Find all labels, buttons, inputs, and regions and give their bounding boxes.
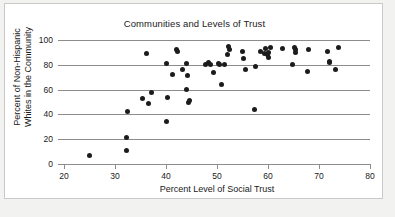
data-point <box>144 51 149 56</box>
plot-area <box>64 40 370 164</box>
data-point <box>243 67 248 72</box>
data-point <box>306 47 311 52</box>
y-tick-label: 40 <box>25 110 53 119</box>
data-point <box>208 62 213 67</box>
x-tick-label: 40 <box>151 172 181 181</box>
gridline <box>64 40 370 41</box>
data-point <box>175 49 180 54</box>
data-point <box>252 107 257 112</box>
data-point <box>253 64 258 69</box>
x-tick-mark <box>64 164 65 169</box>
chart-figure: Communities and Levels of Trust Percent … <box>4 3 383 199</box>
x-tick-label: 80 <box>355 172 385 181</box>
data-point <box>280 46 285 51</box>
x-axis-title: Percent Level of Social Trust <box>64 184 370 194</box>
data-point <box>266 55 271 60</box>
x-tick-mark <box>217 164 218 169</box>
data-point <box>170 72 175 77</box>
data-point <box>268 45 273 50</box>
gridline <box>64 114 370 115</box>
x-tick-label: 20 <box>49 172 79 181</box>
x-tick-label: 30 <box>100 172 130 181</box>
data-point <box>240 49 245 54</box>
data-point <box>180 67 185 72</box>
data-point <box>211 70 216 75</box>
data-point <box>290 62 295 67</box>
data-point <box>164 119 169 124</box>
data-point <box>217 62 222 67</box>
data-point <box>140 96 145 101</box>
x-tick-label: 60 <box>253 172 283 181</box>
figure-root: Communities and Levels of Trust Percent … <box>0 0 395 217</box>
gridline <box>64 139 370 140</box>
data-point <box>187 98 192 103</box>
y-axis-title-line-1: Percent of Non-Hispanic <box>12 0 23 157</box>
x-tick-label: 70 <box>304 172 334 181</box>
data-point <box>87 153 92 158</box>
y-axis-title-line-2: Whites in the Community <box>23 0 34 157</box>
data-point <box>184 87 189 92</box>
y-tick-label: 0 <box>25 160 53 169</box>
y-tick-label: 20 <box>25 135 53 144</box>
data-point <box>185 73 190 78</box>
y-tick-label: 60 <box>25 86 53 95</box>
data-point <box>184 61 189 66</box>
x-tick-mark <box>268 164 269 169</box>
data-point <box>227 47 232 52</box>
data-point <box>222 62 227 67</box>
data-point <box>149 90 154 95</box>
y-axis-title: Percent of Non-Hispanic Whites in the Co… <box>12 0 34 157</box>
x-tick-mark <box>370 164 371 169</box>
chart-title: Communities and Levels of Trust <box>5 18 384 29</box>
data-point <box>146 101 151 106</box>
data-point <box>124 148 129 153</box>
x-tick-mark <box>319 164 320 169</box>
data-point <box>336 45 341 50</box>
data-point <box>305 69 310 74</box>
data-point <box>333 67 338 72</box>
gridline <box>64 90 370 91</box>
y-tick-label: 100 <box>25 36 53 45</box>
x-tick-label: 50 <box>202 172 232 181</box>
data-point <box>219 82 224 87</box>
data-point <box>325 49 330 54</box>
data-point <box>165 95 170 100</box>
data-point <box>164 61 169 66</box>
data-point <box>225 52 230 57</box>
data-point <box>241 56 246 61</box>
y-tick-label: 80 <box>25 61 53 70</box>
x-tick-mark <box>166 164 167 169</box>
x-tick-mark <box>115 164 116 169</box>
